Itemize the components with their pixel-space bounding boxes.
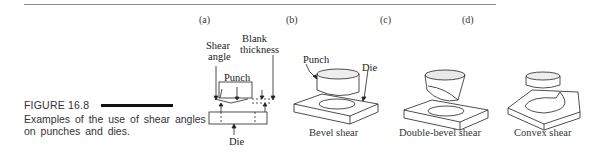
panel-a-punch-drawing bbox=[214, 55, 275, 103]
panel-d-drawing bbox=[508, 72, 580, 130]
figure-drawings bbox=[0, 0, 610, 158]
panel-c-drawing bbox=[404, 70, 488, 130]
panel-a-die-drawing bbox=[209, 103, 267, 135]
panel-b-drawing bbox=[294, 64, 378, 124]
